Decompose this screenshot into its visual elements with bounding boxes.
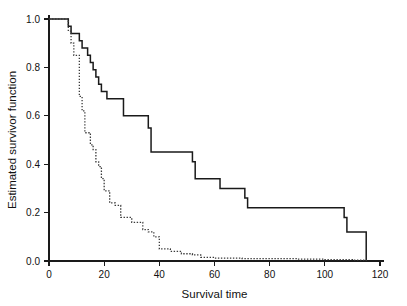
x-axis-title: Survival time bbox=[182, 288, 248, 300]
x-tick-label: 20 bbox=[99, 269, 111, 280]
dotted-survivor-curve bbox=[49, 19, 366, 261]
x-tick-label: 120 bbox=[372, 269, 389, 280]
axis-tick-labels: 0204060801001200.00.20.40.60.81.0 bbox=[26, 14, 389, 280]
y-tick-label: 0.8 bbox=[26, 62, 40, 73]
x-tick-label: 40 bbox=[154, 269, 166, 280]
y-tick-label: 0.2 bbox=[26, 207, 40, 218]
chart-figure: 0204060801001200.00.20.40.60.81.0 Surviv… bbox=[0, 0, 407, 306]
y-tick-label: 0.6 bbox=[26, 110, 40, 121]
y-tick-label: 0.4 bbox=[26, 159, 40, 170]
x-tick-label: 60 bbox=[209, 269, 221, 280]
axis-ticks bbox=[44, 19, 380, 266]
solid-survivor-curve bbox=[49, 19, 366, 261]
x-tick-label: 100 bbox=[316, 269, 333, 280]
survival-plot-svg: 0204060801001200.00.20.40.60.81.0 Surviv… bbox=[0, 0, 407, 306]
x-tick-label: 0 bbox=[46, 269, 52, 280]
y-tick-label: 0.0 bbox=[26, 256, 40, 267]
y-tick-label: 1.0 bbox=[26, 14, 40, 25]
data-curves bbox=[49, 19, 366, 261]
axes bbox=[49, 15, 384, 261]
x-tick-label: 80 bbox=[264, 269, 276, 280]
y-axis-title: Estimated survivor function bbox=[6, 71, 18, 209]
